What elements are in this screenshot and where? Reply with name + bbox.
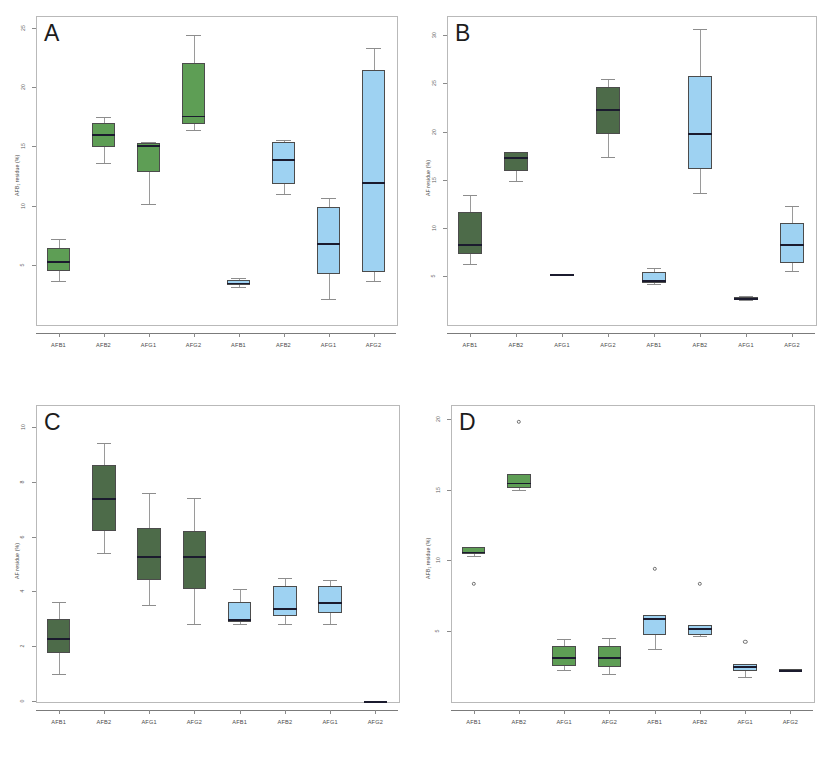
y-axis-tick-label: 5 [434,629,440,632]
median-line [47,638,71,640]
y-axis-tick-label: 10 [20,203,26,209]
whisker-cap-lower [323,624,337,625]
median-line [643,618,667,620]
whisker-cap-lower [231,287,245,288]
median-line [92,498,116,500]
whisker-cap-lower [785,271,799,272]
x-axis-tick-label: AFB1 [51,719,66,725]
x-axis-tick [239,333,240,337]
whisker-cap-upper [557,639,571,640]
whisker-lower [194,589,195,625]
box-rect [47,248,70,271]
whisker-lower [59,653,60,674]
whisker-cap-upper [647,268,661,269]
x-axis-tick [655,710,656,714]
x-axis-tick-label: AFB2 [96,342,111,348]
box-rect [318,586,342,613]
whisker-lower [470,254,471,265]
x-axis-tick [240,710,241,714]
x-axis-tick-label: AFB2 [692,719,707,725]
x-axis-tick [374,333,375,337]
x-axis-tick [745,710,746,714]
median-line [273,608,297,610]
whisker-cap-upper [785,206,799,207]
median-line [272,159,295,161]
whisker-cap-lower [557,670,571,671]
whisker-cap-lower [96,163,110,164]
box-rect [688,76,712,169]
whisker-cap-upper [693,29,707,30]
whisker-cap-lower [233,624,247,625]
x-axis-tick-label: AFB1 [647,342,662,348]
x-axis-tick [194,710,195,714]
whisker-cap-upper [186,35,200,36]
whisker-upper [149,493,150,529]
median-line [92,134,115,136]
y-axis-tick-label: 20 [431,129,437,135]
x-axis-tick-label: AFB2 [277,719,292,725]
whisker-cap-lower [52,674,66,675]
whisker-cap-lower [602,674,616,675]
y-axis-tick-label: 10 [435,557,441,563]
whisker-cap-lower [278,624,292,625]
plot-frame [36,405,400,703]
y-axis-tick [32,265,36,266]
median-line [780,244,804,246]
whisker-cap-lower [97,553,111,554]
whisker-cap-upper [601,79,615,80]
x-axis-tick [790,710,791,714]
median-line [734,298,758,300]
x-axis-tick-label: AFB1 [466,719,481,725]
panel-letter: C [44,411,61,434]
whisker-upper [609,638,610,646]
x-axis-tick-label: AFB2 [511,719,526,725]
y-axis-title: AF residue (%) [425,160,431,196]
whisker-cap-lower [648,649,662,650]
x-axis-tick [654,333,655,337]
whisker-cap-lower [512,490,526,491]
whisker-cap-upper [463,195,477,196]
whisker-lower [655,635,656,649]
whisker-cap-lower [738,677,752,678]
x-axis-tick [474,710,475,714]
box-rect [688,625,712,635]
box-rect [272,142,295,185]
x-axis-tick [59,333,60,337]
y-axis-tick-label: 5 [430,274,436,277]
whisker-upper [700,29,701,75]
plot-frame [451,405,815,703]
box-rect [317,207,340,275]
y-axis-tick-label: 25 [20,25,26,31]
x-axis-tick [609,710,610,714]
x-axis-tick-label: AFB1 [231,342,246,348]
x-axis-tick [285,710,286,714]
x-axis-tick-label: AFG2 [784,342,799,348]
x-axis-tick-label: AFG1 [141,719,156,725]
y-axis-tick [447,419,451,420]
whisker-cap-upper [52,602,66,603]
whisker-upper [59,602,60,618]
whisker-lower [374,272,375,281]
whisker-lower [104,531,105,553]
x-axis-tick-label: AFG2 [783,719,798,725]
x-axis-tick [59,710,60,714]
x-axis-tick-label: AFG1 [141,342,156,348]
box-flat-line [364,701,388,703]
whisker-cap-upper [231,278,245,279]
y-axis-tick [32,87,36,88]
x-axis-tick-label: AFB2 [276,342,291,348]
panel-b: 51015202530AF residue (%)BAFB1AFB2AFG1AF… [411,0,823,379]
box-rect [137,528,161,580]
x-axis-line [447,333,815,334]
whisker-cap-lower [142,605,156,606]
whisker-upper [194,498,195,531]
x-axis-tick-label: AFG2 [186,342,201,348]
median-line [642,280,666,282]
median-line [227,283,250,285]
x-axis-tick [330,710,331,714]
y-axis-tick-label: 15 [431,177,437,183]
y-axis-tick [32,146,36,147]
whisker-cap-lower [693,636,707,637]
median-line [47,261,70,263]
whisker-lower [149,580,150,605]
